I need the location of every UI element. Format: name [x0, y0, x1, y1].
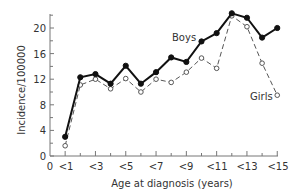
x-tick-5: <5: [119, 161, 134, 172]
boys-label: Boys: [172, 32, 196, 43]
x-tick-15: <15: [267, 161, 288, 172]
x-tick-13: <13: [236, 161, 257, 172]
boys-data-point: [63, 134, 68, 139]
boys-data-point: [93, 71, 98, 76]
y-axis: [50, 14, 54, 156]
girls-data-point: [123, 76, 128, 81]
girls-data-point: [169, 80, 174, 85]
y-tick-4: 4: [40, 125, 46, 136]
girls-data-point: [214, 66, 219, 71]
boys-data-point: [153, 70, 158, 75]
incidence-line-chart: 0 4 8 12 16 20 0 <1 <3 <5 <7 <9 <11 <13 …: [0, 0, 302, 194]
x-tick-3: <3: [89, 161, 104, 172]
y-tick-12: 12: [33, 74, 46, 85]
girls-data-point: [154, 77, 159, 82]
y-tick-0: 0: [40, 151, 46, 162]
y-tick-16: 16: [33, 49, 46, 60]
girls-data-point: [184, 70, 189, 75]
boys-data-point: [78, 75, 83, 80]
y-tick-8: 8: [40, 100, 46, 111]
boys-data-point: [108, 81, 113, 86]
y-tick-20: 20: [33, 23, 46, 34]
x-tick-1: <1: [59, 161, 74, 172]
x-tick-0: 0: [47, 161, 53, 172]
series-boys: [63, 11, 280, 140]
girls-data-point: [245, 24, 250, 29]
boys-data-point: [229, 11, 234, 16]
boys-data-point: [184, 59, 189, 64]
girls-data-point: [275, 93, 280, 98]
x-axis: [50, 151, 278, 156]
girls-data-point: [108, 87, 113, 92]
y-axis-title: Incidence/100000: [16, 45, 27, 135]
x-axis-title: Age at diagnosis (years): [111, 178, 233, 189]
y-tick-labels: 0 4 8 12 16 20: [33, 23, 46, 162]
girls-data-point: [139, 90, 144, 95]
x-tick-11: <11: [206, 161, 227, 172]
boys-data-point: [199, 39, 204, 44]
boys-data-point: [244, 15, 249, 20]
girls-data-point: [199, 56, 204, 61]
boys-data-point: [275, 25, 280, 30]
x-tick-labels: 0 <1 <3 <5 <7 <9 <11 <13 <15: [47, 161, 289, 172]
girls-data-point: [260, 61, 265, 66]
boys-data-point: [169, 55, 174, 60]
x-tick-7: <7: [149, 161, 164, 172]
boys-data-point: [123, 63, 128, 68]
boys-data-point: [138, 81, 143, 86]
x-tick-9: <9: [179, 161, 194, 172]
girls-data-point: [93, 77, 98, 82]
girls-data-point: [63, 143, 68, 148]
boys-data-point: [260, 35, 265, 40]
girls-label: Girls: [250, 91, 273, 102]
boys-data-point: [214, 31, 219, 36]
